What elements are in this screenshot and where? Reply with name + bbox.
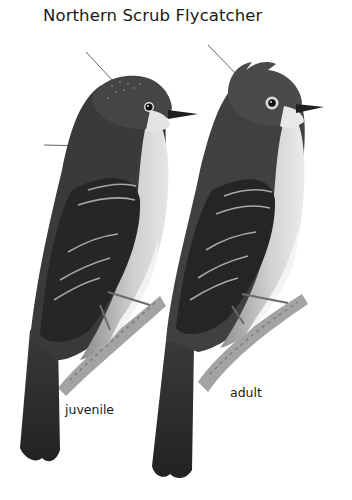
eye-adult	[268, 99, 276, 107]
label-juvenile: juvenile	[65, 402, 114, 417]
bird-adult	[152, 62, 324, 478]
pointer-line-juvenile-crown	[86, 52, 114, 82]
label-adult: adult	[230, 385, 262, 400]
bird-illustration	[0, 0, 352, 500]
pointer-line-adult-crest	[208, 45, 238, 76]
